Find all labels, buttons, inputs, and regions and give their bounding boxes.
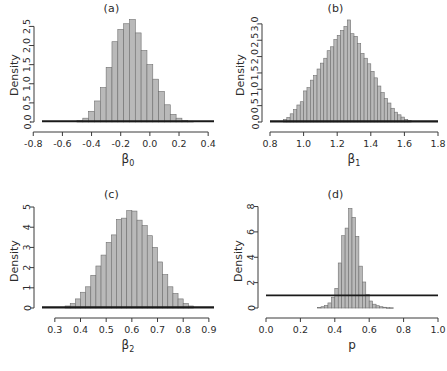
figure-multipanel-histograms: (a) Densityβ0-0.8-0.6-0.4-0.20.00.20.40.… xyxy=(0,0,447,371)
y-axis-tick-label: 2.0 xyxy=(22,38,33,53)
histogram-bar xyxy=(344,27,347,123)
histogram-bar xyxy=(328,303,331,308)
histogram-bar xyxy=(318,307,321,308)
histogram-bar xyxy=(327,51,330,122)
y-axis-tick-label: 2.0 xyxy=(250,49,261,64)
histogram-bar xyxy=(100,88,106,122)
x-axis-tick-label: 1.6 xyxy=(397,138,412,149)
histogram-bar xyxy=(366,295,369,308)
histogram-bar xyxy=(122,218,127,308)
histogram-bar xyxy=(142,226,147,308)
x-axis-tick-label: 0.6 xyxy=(124,324,139,335)
histogram-bar xyxy=(147,65,153,122)
histogram-bar xyxy=(158,262,163,308)
histogram-bar xyxy=(320,63,323,122)
histogram-bar xyxy=(152,247,157,308)
x-axis-tick-label: 1.0 xyxy=(430,324,445,335)
histogram-bar xyxy=(94,101,100,122)
histogram-bar xyxy=(347,20,350,122)
histogram-bar xyxy=(324,58,327,122)
y-axis-tick-label: 3.0 xyxy=(250,16,261,31)
panel-c: (c) Densityβ20.30.40.50.60.70.80.9012345 xyxy=(0,186,223,371)
histogram-bar xyxy=(342,236,345,308)
x-axis-tick-label: 1.2 xyxy=(330,138,345,149)
y-axis-tick-label: 4 xyxy=(246,254,257,260)
histogram-bar xyxy=(314,76,317,122)
x-axis-tick-label: 0.4 xyxy=(201,138,216,149)
y-axis-tick-label: 8 xyxy=(246,204,257,210)
histogram-bar xyxy=(300,102,303,122)
panel-d-plot: 0.00.20.40.60.81.002468 xyxy=(224,186,447,371)
histogram-bar xyxy=(390,308,393,309)
x-axis-tick-label: 0.0 xyxy=(142,138,157,149)
x-axis-tick-label: 0.2 xyxy=(293,324,308,335)
x-axis-tick-label: 0.3 xyxy=(47,324,62,335)
histogram-bar xyxy=(106,242,111,308)
y-axis-tick-label: 1.0 xyxy=(22,76,33,91)
x-axis-tick-label: 0.2 xyxy=(171,138,186,149)
y-axis-tick-label: 2.5 xyxy=(250,33,261,48)
x-axis-tick-label: 0.4 xyxy=(73,324,88,335)
histogram-bar xyxy=(354,36,357,122)
y-axis-tick-label: 1 xyxy=(22,285,33,291)
y-axis-tick-label: 2 xyxy=(246,280,257,286)
histogram-bar xyxy=(335,288,338,308)
histogram-bar xyxy=(141,51,147,123)
histogram-bar xyxy=(111,235,116,308)
x-axis-tick-label: 0.8 xyxy=(262,138,277,149)
x-axis-tick-label: 0.5 xyxy=(99,324,114,335)
histogram-bar xyxy=(374,78,377,122)
histogram-bar xyxy=(106,67,112,122)
x-axis-tick-label: 0.6 xyxy=(362,324,377,335)
histogram-bar xyxy=(118,29,124,122)
histogram-bar xyxy=(127,211,132,308)
histogram-bar xyxy=(135,33,141,122)
histogram-bar xyxy=(129,20,135,122)
histogram-bar xyxy=(81,292,86,308)
histogram-bar xyxy=(349,208,352,308)
histogram-bar xyxy=(297,105,300,122)
histogram-bar xyxy=(355,236,358,308)
histogram-bar xyxy=(371,71,374,122)
histogram-bar xyxy=(163,275,168,308)
histogram-bar xyxy=(383,307,386,308)
histogram-bar xyxy=(147,236,152,308)
y-axis-tick-label: 1.0 xyxy=(250,82,261,97)
y-axis-tick-label: 2 xyxy=(22,265,33,271)
histogram-bar xyxy=(380,307,383,308)
x-axis-tick-label: -0.8 xyxy=(24,138,43,149)
histogram-bar xyxy=(294,110,297,122)
histogram-bar xyxy=(310,80,313,122)
histogram-bar xyxy=(330,47,333,122)
histogram-bar xyxy=(351,34,354,122)
histogram-bar xyxy=(116,220,121,308)
x-axis-tick-label: 0.0 xyxy=(258,324,273,335)
y-axis-tick-label: 0.5 xyxy=(22,95,33,110)
y-axis-tick-label: 0.0 xyxy=(22,114,33,129)
histogram-bar xyxy=(324,305,327,308)
histogram-bar xyxy=(153,79,159,122)
histogram-bar xyxy=(378,86,381,122)
histogram-bar xyxy=(307,88,310,122)
histogram-bar xyxy=(159,91,165,122)
histogram-bar xyxy=(361,53,364,122)
y-axis-tick-label: 1.5 xyxy=(22,57,33,72)
y-axis-tick-label: 3 xyxy=(22,244,33,250)
histogram-bar xyxy=(91,275,96,308)
histogram-bar xyxy=(386,308,389,309)
y-axis-tick-label: 5 xyxy=(22,204,33,210)
y-axis-tick-label: 4 xyxy=(22,224,33,230)
x-axis-tick-label: 0.8 xyxy=(176,324,191,335)
histogram-bar xyxy=(373,304,376,308)
y-axis-tick-label: 0.0 xyxy=(250,114,261,129)
histogram-bar xyxy=(391,108,394,122)
histogram-bar xyxy=(137,220,142,308)
panel-a-plot: -0.8-0.6-0.4-0.20.00.20.40.00.51.01.52.0… xyxy=(0,0,223,185)
histogram-bar xyxy=(352,217,355,308)
panel-a: (a) Densityβ0-0.8-0.6-0.4-0.20.00.20.40.… xyxy=(0,0,223,185)
x-axis-tick-label: 1.4 xyxy=(363,138,378,149)
histogram-bar xyxy=(384,98,387,122)
y-axis-tick-label: 0.5 xyxy=(250,98,261,113)
histogram-bar xyxy=(101,255,106,308)
histogram-bar xyxy=(369,301,372,308)
